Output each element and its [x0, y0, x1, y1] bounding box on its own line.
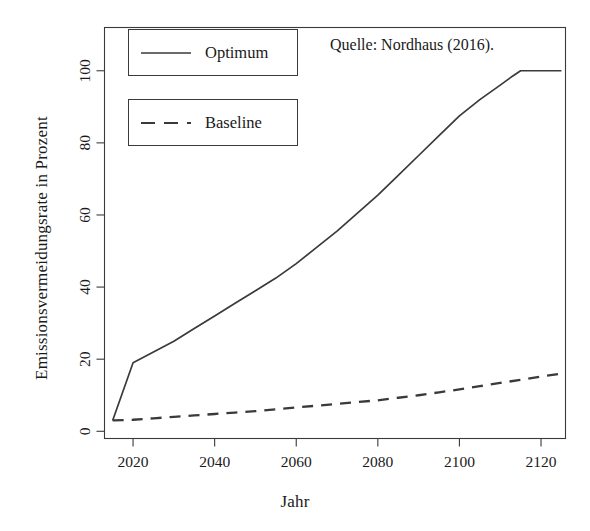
x-tick-label: 2080 [362, 453, 393, 470]
y-tick-label: 80 [76, 135, 93, 151]
legend-swatch-dashed-icon [141, 116, 191, 130]
y-tick-label: 100 [76, 59, 93, 83]
legend-swatch-solid-icon [141, 46, 191, 60]
legend-item-optimum: Optimum [128, 29, 298, 76]
x-axis-tick-labels: 202020402060208021002120 [118, 453, 557, 470]
chart-figure: 202020402060208021002120 020406080100 Em… [0, 0, 590, 531]
plot-canvas: 202020402060208021002120 020406080100 [0, 0, 590, 531]
x-tick-label: 2020 [118, 453, 149, 470]
y-axis-ticks [97, 71, 105, 432]
x-tick-label: 2040 [199, 453, 230, 470]
legend-label-baseline: Baseline [205, 113, 262, 133]
y-tick-label: 0 [76, 427, 93, 435]
x-tick-label: 2120 [526, 453, 557, 470]
source-annotation: Quelle: Nordhaus (2016). [330, 36, 494, 54]
series-line-baseline [113, 374, 562, 421]
x-axis-ticks [133, 439, 541, 447]
y-axis-title: Emissionsvermeidungsrate in Prozent [32, 58, 52, 438]
y-tick-label: 20 [76, 351, 93, 367]
y-axis-tick-labels: 020406080100 [76, 59, 93, 435]
y-tick-label: 40 [76, 279, 93, 295]
x-axis-title: Jahr [0, 492, 590, 512]
x-tick-label: 2100 [444, 453, 475, 470]
legend-label-optimum: Optimum [205, 43, 268, 63]
x-tick-label: 2060 [281, 453, 312, 470]
y-tick-label: 60 [76, 207, 93, 223]
legend-item-baseline: Baseline [128, 99, 298, 146]
